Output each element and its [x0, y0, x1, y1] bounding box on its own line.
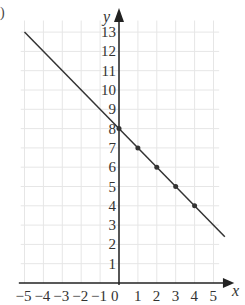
x-tick-label: 1 [134, 288, 142, 304]
line-graph: ) −5−4−3−2−101234512345678910111213 y x [0, 0, 245, 305]
x-tick-label: −3 [53, 288, 69, 304]
data-point [135, 145, 140, 150]
data-point [117, 126, 122, 131]
y-tick-label: 12 [101, 43, 116, 59]
y-tick-label: 9 [109, 101, 117, 117]
y-tick-label: 4 [109, 198, 117, 214]
x-tick-label: 4 [191, 288, 199, 304]
y-tick-label: 2 [109, 236, 117, 252]
y-axis-arrow-icon [114, 8, 124, 22]
x-tick-label: −4 [34, 288, 50, 304]
data-point [192, 203, 197, 208]
x-tick-label: −2 [72, 288, 88, 304]
y-tick-label: 5 [109, 179, 117, 195]
y-tick-label: 11 [102, 63, 116, 79]
y-tick-label: 10 [101, 82, 116, 98]
y-axis-label: y [101, 8, 111, 26]
x-tick-label: 5 [210, 288, 218, 304]
x-tick-label: −1 [91, 288, 107, 304]
y-tick-label: 13 [101, 24, 116, 40]
x-axis-label: x [231, 282, 239, 299]
y-tick-label: 1 [109, 256, 117, 272]
data-point [173, 184, 178, 189]
y-tick-label: 7 [109, 140, 117, 156]
y-tick-label: 8 [109, 121, 117, 137]
x-tick-label: 2 [153, 288, 161, 304]
part-label: ) [0, 5, 5, 21]
data-point [154, 165, 159, 170]
x-tick-label: 0 [111, 288, 119, 304]
tick-labels: −5−4−3−2−101234512345678910111213 [16, 24, 218, 304]
grid [21, 21, 219, 283]
y-tick-label: 6 [109, 159, 117, 175]
y-tick-label: 3 [109, 217, 117, 233]
x-tick-label: −5 [16, 288, 32, 304]
x-tick-label: 3 [172, 288, 180, 304]
